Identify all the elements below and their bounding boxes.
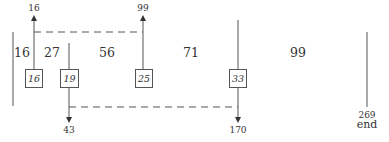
arrow-end-label: 99 [137,3,149,13]
marker-box-label: 25 [137,73,150,84]
marker-box-label: 33 [232,73,244,84]
arrow-down-icon [66,117,72,123]
arrow-up-icon [140,15,146,21]
arrow-end-label: 16 [28,3,40,13]
end-label: end [357,118,378,131]
marker-box-label: 19 [63,73,75,84]
interval-diagram: 16 27 56 71 99 16 16 19 43 99 25 33 170 … [0,0,389,142]
segment-label: 99 [290,45,306,60]
segment-label: 27 [44,45,60,60]
segment-label: 71 [183,45,199,60]
segment-label: 16 [14,45,30,60]
segment-label: 56 [99,45,115,60]
arrow-down-icon [235,117,241,123]
arrow-up-icon [31,15,37,21]
arrow-end-label: 170 [229,125,246,135]
marker-box-label: 16 [28,73,40,84]
arrow-end-label: 43 [63,125,75,135]
